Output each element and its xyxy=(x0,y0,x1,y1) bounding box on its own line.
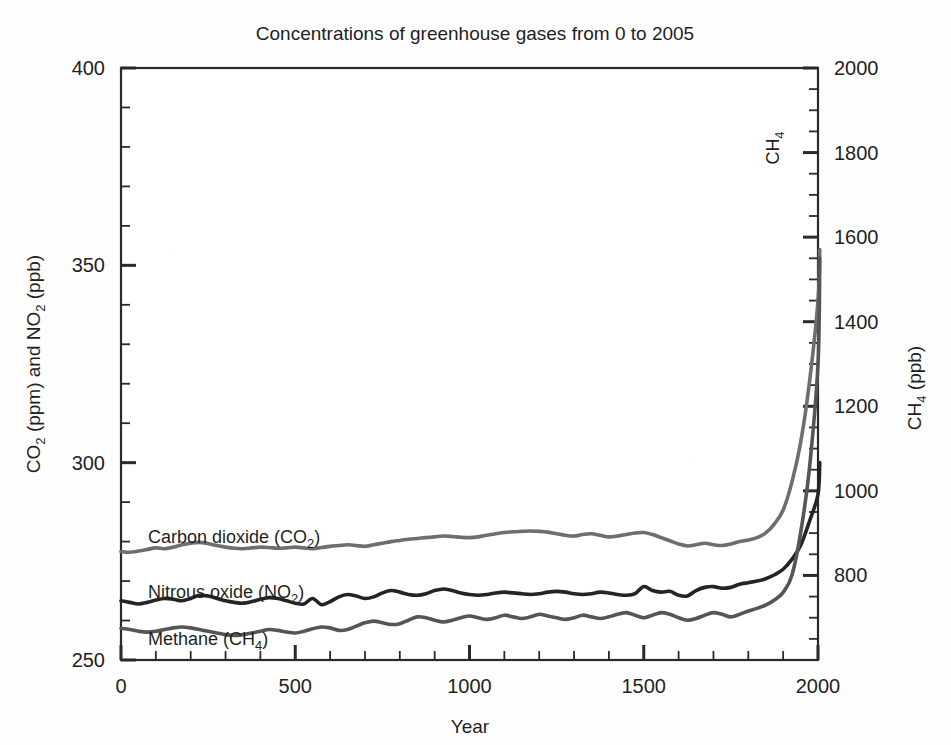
ch4-label-sub: 4 xyxy=(255,638,262,653)
y-left-tick-label: 400 xyxy=(72,57,105,79)
y-right-title-tail: (ppb) xyxy=(904,346,925,396)
ch4-label-main: Methane (CH xyxy=(148,629,255,649)
y-left-title-mid: (ppm) and NO xyxy=(23,312,44,438)
y-axis-left-tick-labels: 250300350400 xyxy=(72,57,105,671)
y-axis-right-tick-labels: 800100012001400160018002000 xyxy=(834,57,879,586)
chart-page: Concentrations of greenhouse gases from … xyxy=(0,0,951,745)
y-right-tick-label: 2000 xyxy=(834,57,879,79)
greenhouse-gas-line-chart: Concentrations of greenhouse gases from … xyxy=(0,0,951,745)
annotation-ch4-main: CH xyxy=(763,139,783,165)
plot-frame xyxy=(121,68,818,660)
n2o-label-main: Nitrous oxide (NO xyxy=(148,582,291,602)
co2-label-main: Carbon dioxide (CO xyxy=(148,527,307,547)
y-left-title-tail: (ppb) xyxy=(23,255,44,305)
y-axis-right-title: CH4 (ppb) xyxy=(904,346,929,430)
x-axis-tick-labels: 0500100015002000 xyxy=(115,675,840,697)
y-right-title-ch: CH xyxy=(904,403,925,430)
x-tick-label: 0 xyxy=(115,675,126,697)
y-left-tick-label: 300 xyxy=(72,452,105,474)
annotation-ch4-sub: 4 xyxy=(772,131,787,138)
y-left-title-co: CO xyxy=(23,445,44,474)
svg-text:CO2 (ppm) and NO2 (ppb): CO2 (ppm) and NO2 (ppb) xyxy=(23,255,48,473)
y-left-tick-label: 250 xyxy=(72,649,105,671)
chart-title: Concentrations of greenhouse gases from … xyxy=(256,23,694,44)
x-tick-label: 500 xyxy=(279,675,312,697)
y-right-tick-label: 1400 xyxy=(834,311,879,333)
svg-text:CH4 (ppb): CH4 (ppb) xyxy=(904,346,929,430)
n2o-label-sub: 2 xyxy=(291,591,298,606)
x-tick-label: 1500 xyxy=(622,675,667,697)
co2-label-sub: 2 xyxy=(307,536,314,551)
y-axis-left-title: CO2 (ppm) and NO2 (ppb) xyxy=(23,255,48,473)
y-right-title-ch-sub: 4 xyxy=(914,395,929,402)
x-tick-label: 2000 xyxy=(796,675,841,697)
y-right-tick-label: 1200 xyxy=(834,395,879,417)
x-axis-title: Year xyxy=(451,716,490,737)
y-left-tick-label: 350 xyxy=(72,254,105,276)
n2o-label-tail: ) xyxy=(298,582,304,602)
co2-label-tail: ) xyxy=(314,527,320,547)
ch4-label-tail: ) xyxy=(262,629,268,649)
y-right-tick-label: 800 xyxy=(834,564,867,586)
y-left-title-no-sub: 2 xyxy=(33,305,48,312)
y-left-title-co-sub: 2 xyxy=(33,437,48,444)
y-right-tick-label: 1600 xyxy=(834,226,879,248)
x-tick-label: 1000 xyxy=(447,675,492,697)
y-right-tick-label: 1800 xyxy=(834,142,879,164)
y-right-tick-label: 1000 xyxy=(834,480,879,502)
